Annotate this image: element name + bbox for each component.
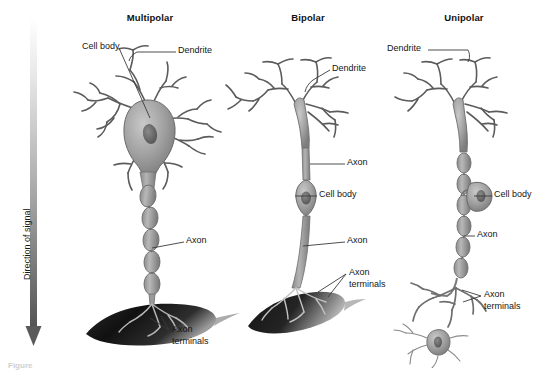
label-unipolar-axon: Axon [477, 229, 498, 240]
column-title-bipolar: Bipolar [258, 12, 358, 23]
column-title-unipolar: Unipolar [414, 12, 514, 23]
label-multipolar-axon-terminals-line2: terminals [172, 336, 209, 347]
label-multipolar-axon: Axon [186, 235, 207, 246]
multipolar-neuron-art [74, 46, 240, 346]
figure-caption: Figure [8, 361, 32, 370]
label-multipolar-cell-body: Cell body [82, 41, 120, 52]
label-unipolar-axon-terminals-line1: Axon [484, 289, 505, 300]
label-bipolar-axon-terminals-line2: terminals [349, 279, 386, 290]
label-unipolar-axon-terminals-line2: terminals [484, 301, 521, 312]
label-unipolar-cell-body: Cell body [494, 189, 532, 200]
label-bipolar-axon-upper: Axon [347, 157, 368, 168]
direction-of-signal-arrow [26, 18, 42, 346]
label-bipolar-axon-lower: Axon [347, 235, 368, 246]
label-multipolar-axon-terminals-line1: Axon [172, 324, 193, 335]
column-title-multipolar: Multipolar [100, 12, 200, 23]
label-bipolar-cell-body: Cell body [319, 189, 357, 200]
label-bipolar-axon-terminals-line1: Axon [349, 267, 370, 278]
label-multipolar-dendrite: Dendrite [178, 45, 212, 56]
unipolar-neuron-art [394, 58, 507, 368]
label-unipolar-dendrite: Dendrite [387, 43, 421, 54]
label-bipolar-dendrite: Dendrite [332, 63, 366, 74]
direction-of-signal-label: Direction of signal [22, 208, 32, 280]
